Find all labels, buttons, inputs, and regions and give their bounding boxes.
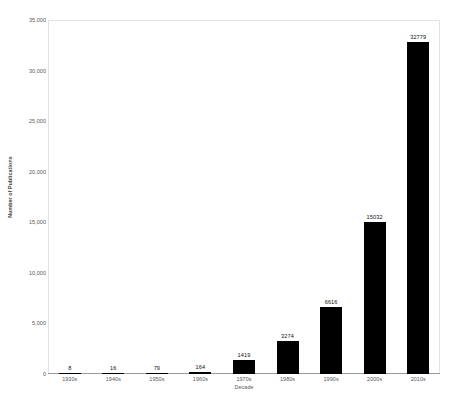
- bar-group: 79: [135, 20, 179, 374]
- bar-group: 32779: [396, 20, 440, 374]
- y-axis-tick-label: 25,000: [18, 118, 46, 124]
- x-axis-tick-label: 1930s: [62, 376, 77, 382]
- y-axis-tick-label: 5,000: [18, 320, 46, 326]
- y-axis-tick-labels: 05,00010,00015,00020,00025,00030,00035,0…: [16, 0, 46, 374]
- bar-group: 1419: [222, 20, 266, 374]
- bar-chart: Number of Publications 05,00010,00015,00…: [0, 0, 457, 414]
- bar[interactable]: [364, 222, 386, 374]
- y-axis-tick-label: 0: [18, 371, 46, 377]
- x-axis-tick-label: 1940s: [106, 376, 121, 382]
- x-axis-tick-label: 1950s: [149, 376, 164, 382]
- bar-group: 6616: [309, 20, 353, 374]
- bar[interactable]: [189, 372, 211, 374]
- bar-value-label: 79: [154, 365, 160, 371]
- bar-value-label: 164: [196, 364, 206, 370]
- x-axis-tick-label: 2000s: [367, 376, 382, 382]
- y-axis-tick-label: 30,000: [18, 68, 46, 74]
- bar-group: 3274: [266, 20, 310, 374]
- x-axis-tick-label: 1960s: [193, 376, 208, 382]
- bar[interactable]: [233, 360, 255, 374]
- bar[interactable]: [102, 373, 124, 374]
- y-axis-tick-label: 35,000: [18, 17, 46, 23]
- bar[interactable]: [407, 42, 429, 374]
- bar-value-label: 15032: [367, 214, 383, 220]
- bar-group: 164: [179, 20, 223, 374]
- bar[interactable]: [320, 307, 342, 374]
- bar-value-label: 32779: [410, 34, 426, 40]
- bar-value-label: 8: [68, 365, 71, 371]
- y-axis-tick-label: 15,000: [18, 219, 46, 225]
- bar[interactable]: [277, 341, 299, 374]
- y-axis-tick-label: 10,000: [18, 270, 46, 276]
- x-axis-tick-label: 1990s: [324, 376, 339, 382]
- bar[interactable]: [59, 373, 81, 374]
- bar-value-label: 6616: [325, 299, 338, 305]
- bar[interactable]: [146, 373, 168, 374]
- x-axis-tick-label: 1980s: [280, 376, 295, 382]
- y-axis-tick-label: 20,000: [18, 169, 46, 175]
- x-axis-title: Decade: [234, 384, 253, 390]
- bar-value-label: 3274: [281, 333, 294, 339]
- x-axis-tick-label: 2010s: [411, 376, 426, 382]
- bar-group: 15032: [353, 20, 397, 374]
- bar-value-label: 16: [110, 365, 116, 371]
- bars-layer: 816791641419327466161503232779: [48, 20, 440, 374]
- bar-value-label: 1419: [238, 352, 251, 358]
- y-axis-title-text: Number of Publications: [7, 156, 13, 218]
- bar-group: 8: [48, 20, 92, 374]
- bar-group: 16: [92, 20, 136, 374]
- x-axis-tick-label: 1970s: [236, 376, 251, 382]
